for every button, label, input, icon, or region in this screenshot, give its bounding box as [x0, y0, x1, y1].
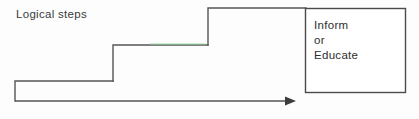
diagram-label-layer: Logical steps Inform or Educate	[0, 0, 419, 119]
logical-steps-caption: Logical steps	[16, 8, 87, 20]
outcome-box-text: Inform or Educate	[314, 18, 358, 63]
outcome-box-line-3: Educate	[314, 48, 358, 63]
diagram-canvas: Logical steps Inform or Educate	[0, 0, 419, 119]
outcome-box-line-2: or	[314, 33, 358, 48]
outcome-box-line-1: Inform	[314, 18, 358, 33]
